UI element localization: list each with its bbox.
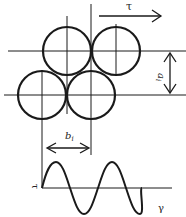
wave-x-axis-label: γ: [158, 202, 164, 213]
particle-shear-diagram: τ ai bi τ γ: [0, 0, 186, 217]
wave-y-axis-label: τ: [30, 184, 40, 189]
horizontal-spacing-label: bi: [65, 130, 74, 143]
shear-stress-label: τ: [126, 0, 132, 13]
horizontal-spacing-arrow-icon: [47, 143, 89, 153]
vertical-spacing-label: ai: [154, 73, 167, 81]
